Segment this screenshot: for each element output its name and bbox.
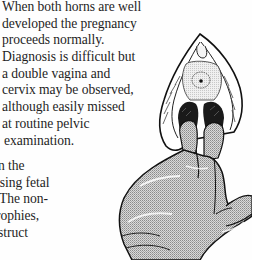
cervix: [183, 61, 222, 100]
text-line: struct: [0, 225, 49, 242]
external-os-icon: [199, 79, 203, 83]
text-line: The non-: [0, 191, 49, 208]
gloved-hand: [120, 121, 253, 260]
book-page: When both horns are well developed the p…: [0, 0, 252, 260]
text-line: rophies,: [0, 208, 49, 225]
text-line: n the: [0, 158, 49, 175]
text-line: When both horns are well: [2, 0, 141, 16]
pelvic-exam-illustration: [118, 28, 252, 260]
lower-paragraph-cropped: n the using fetal The non- rophies, stru…: [0, 158, 49, 241]
text-line: using fetal: [0, 175, 49, 192]
